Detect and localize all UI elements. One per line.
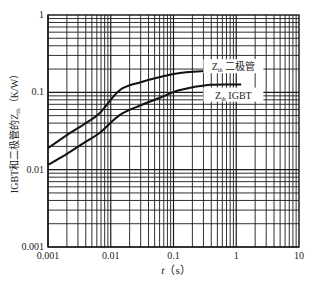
y-axis-label: IGBT和二极管的Zth（K/W） [8,69,22,193]
tick-labels: 0.0010.010.11100.0010.010.11 [22,9,305,261]
data-curves [48,70,241,165]
y-tick-label: 0.01 [27,164,45,175]
y-tick-label: 0.1 [32,86,45,97]
igbt-series-label: Zth IGBT [215,90,252,102]
y-tick-label: 0.001 [22,241,45,252]
x-axis-label: t（s） [161,264,190,276]
x-tick-label: 10 [294,250,304,261]
x-tick-label: 1 [234,250,239,261]
x-tick-label: 0.01 [102,250,120,261]
grid-lines [48,15,299,247]
x-tick-label: 0.1 [167,250,180,261]
thermal-impedance-chart: Zth 二极管Zth IGBT 0.0010.010.11100.0010.01… [0,0,318,287]
y-tick-label: 1 [39,9,44,20]
